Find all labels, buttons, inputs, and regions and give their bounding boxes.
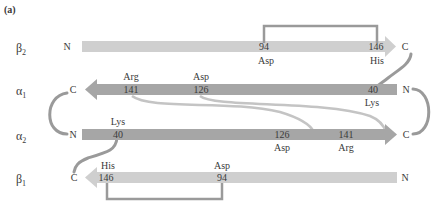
panel-label: (a)	[4, 4, 16, 16]
svg-text:β1: β1	[16, 172, 26, 188]
svg-text:α2: α2	[16, 129, 26, 145]
residue-num-alpha1-40: 40	[368, 84, 378, 95]
svg-text:α1: α1	[16, 84, 26, 100]
svg-text:β2: β2	[16, 41, 26, 57]
bracket-beta2-asp94-his146	[264, 26, 377, 43]
alpha2-n-terminus: N	[69, 129, 76, 140]
residue-num-beta1-94: 94	[217, 172, 227, 183]
residue-num-beta2-94: 94	[259, 41, 269, 52]
residue-name-alpha2-40: Lys	[111, 116, 126, 127]
beta2-n-terminus: N	[63, 41, 70, 52]
residue-name-beta1-94: Asp	[214, 160, 230, 171]
residue-name-beta1-146: His	[101, 160, 115, 171]
bridge-alpha1-asp126-to-alpha2-arg141	[200, 96, 386, 132]
residue-name-beta2-94: Asp	[258, 55, 274, 66]
alpha1-c-terminus: C	[70, 84, 77, 95]
residue-num-beta1-146: 146	[99, 172, 114, 183]
chain-label-alpha2: α2	[16, 129, 26, 145]
residue-names: Asp His Arg Asp Lys Lys Asp Arg His Asp	[101, 55, 384, 171]
residue-num-alpha2-126: 126	[275, 129, 290, 140]
residue-num-alpha2-40: 40	[113, 129, 123, 140]
beta2-chain-arrow	[82, 36, 396, 57]
residue-name-beta2-146: His	[370, 55, 384, 66]
connector-alpha1-n-to-alpha2-c	[413, 89, 429, 134]
residue-name-alpha1-40: Lys	[365, 97, 380, 108]
alpha1-n-terminus: N	[402, 84, 409, 95]
residue-name-alpha1-141: Arg	[123, 71, 138, 82]
residue-num-alpha1-141: 141	[124, 84, 139, 95]
beta1-c-terminus: C	[71, 172, 78, 183]
salt-bridges-alpha	[132, 96, 386, 132]
residue-name-alpha2-126: Asp	[274, 142, 290, 153]
chain-label-alpha1: α1	[16, 84, 26, 100]
beta1-n-terminus: N	[401, 172, 408, 183]
residue-numbers: 94 146 141 126 40 40 126 141 146 94	[99, 41, 384, 183]
chain-label-beta1: β1	[16, 172, 26, 188]
residue-num-alpha1-126: 126	[194, 84, 209, 95]
chain-label-beta2: β2	[16, 41, 26, 57]
connector-alpha1-c-to-alpha2-n	[50, 93, 67, 134]
bracket-beta1-his146-asp94	[107, 183, 222, 199]
beta1-chain-arrow	[85, 167, 397, 188]
beta2-c-terminus: C	[402, 41, 409, 52]
alpha2-c-terminus: C	[403, 129, 410, 140]
residue-name-alpha1-126: Asp	[193, 71, 209, 82]
residue-num-alpha2-141: 141	[339, 129, 354, 140]
residue-name-alpha2-141: Arg	[338, 142, 353, 153]
connectors	[50, 54, 429, 172]
hemoglobin-salt-bridge-diagram: (a) β2 α1 α2 β1	[0, 0, 444, 209]
residue-num-beta2-146: 146	[369, 41, 384, 52]
